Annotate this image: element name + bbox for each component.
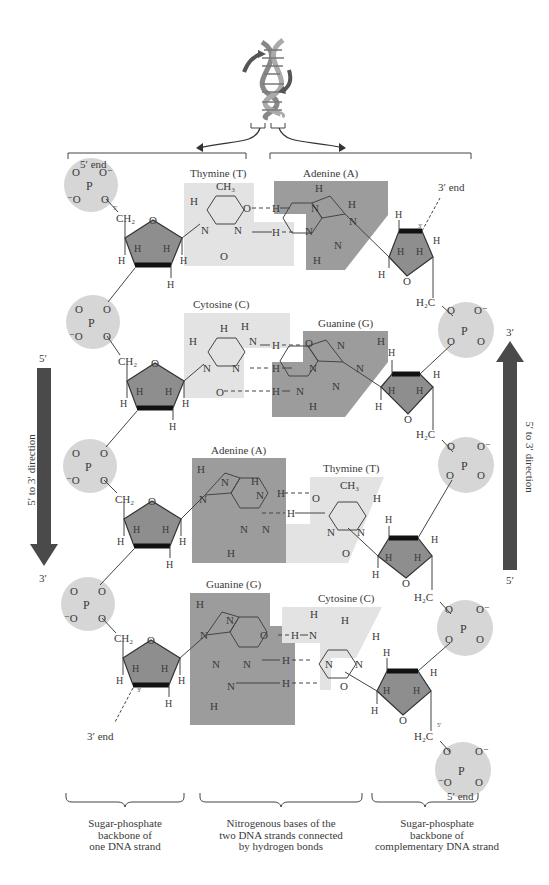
svg-text:H: H <box>388 385 395 396</box>
svg-text:P: P <box>88 316 95 330</box>
svg-text:O: O <box>72 447 80 459</box>
svg-text:⁻O: ⁻O <box>64 612 78 624</box>
svg-text:O: O <box>98 612 106 624</box>
svg-text:N: N <box>337 339 345 351</box>
svg-text:O: O <box>100 447 108 459</box>
svg-text:H: H <box>272 385 280 397</box>
svg-text:O: O <box>447 304 455 316</box>
svg-text:H₂C: H₂C <box>414 591 433 603</box>
svg-text:H: H <box>433 369 440 380</box>
svg-text:H: H <box>433 235 440 246</box>
left-arrow-top-label: 5′ <box>39 352 47 364</box>
base-label-thymine-3: Thymine (T) <box>323 462 380 475</box>
right-arrow-direction-label: 5′ to 3′ direction <box>524 421 536 493</box>
svg-text:H₂C: H₂C <box>416 428 435 440</box>
svg-text:H: H <box>180 255 187 266</box>
svg-text:O: O <box>260 629 268 641</box>
svg-text:N: N <box>309 629 317 641</box>
svg-text:N: N <box>305 225 313 237</box>
svg-text:H: H <box>287 507 295 519</box>
svg-text:⁻O: ⁻O <box>69 330 83 342</box>
svg-text:H: H <box>197 463 205 475</box>
svg-text:H: H <box>377 335 385 347</box>
svg-text:O: O <box>151 357 159 369</box>
svg-text:H: H <box>272 339 280 351</box>
svg-text:N: N <box>212 658 220 670</box>
caption-left-backbone: Sugar-phosphate backbone of one DNA stra… <box>50 818 200 853</box>
svg-text:H: H <box>161 663 168 674</box>
left-arrow-direction-label: 5′ to 3′ direction <box>25 434 37 506</box>
svg-text:O: O <box>399 714 407 726</box>
double-helix-icon <box>196 40 346 152</box>
svg-text:H: H <box>371 705 378 716</box>
svg-text:N: N <box>296 385 304 397</box>
svg-text:H: H <box>272 202 280 214</box>
svg-text:3′: 3′ <box>137 687 142 693</box>
svg-text:H: H <box>315 182 323 194</box>
svg-text:H: H <box>251 475 259 487</box>
svg-text:H: H <box>372 630 380 642</box>
svg-text:P: P <box>86 179 93 193</box>
svg-text:O: O <box>475 776 483 788</box>
svg-text:⁻O: ⁻O <box>67 193 81 205</box>
svg-text:H: H <box>227 547 235 559</box>
base-label-thymine-1: Thymine (T) <box>190 167 247 180</box>
svg-text:N: N <box>234 224 242 236</box>
svg-text:O: O <box>216 386 224 398</box>
base-label-adenine-3: Adenine (A) <box>211 444 267 457</box>
svg-text:H: H <box>162 524 169 535</box>
svg-text:H: H <box>383 685 390 696</box>
svg-text:H: H <box>118 255 125 266</box>
svg-text:O: O <box>147 634 155 646</box>
caption-right-backbone: Sugar-phosphate backbone of complementar… <box>362 818 512 853</box>
svg-text:O: O <box>220 250 228 262</box>
svg-text:O: O <box>447 440 455 452</box>
left-arrow-bottom-label: 3′ <box>39 572 47 584</box>
svg-text:O: O <box>446 469 454 481</box>
svg-text:N: N <box>199 493 207 505</box>
svg-text:H: H <box>272 226 280 238</box>
thymine-shade-3 <box>286 477 384 563</box>
svg-text:O: O <box>100 474 108 486</box>
svg-text:O⁻: O⁻ <box>474 304 488 316</box>
svg-text:H: H <box>189 335 197 347</box>
svg-text:H: H <box>310 608 318 620</box>
svg-text:H: H <box>383 647 390 658</box>
right-arrow-top-label: 3′ <box>506 326 514 338</box>
svg-text:O: O <box>243 202 251 214</box>
svg-text:H: H <box>309 400 317 412</box>
svg-text:H: H <box>395 209 402 220</box>
svg-text:H: H <box>167 279 174 290</box>
caption-nitrogenous-bases: Nitrogenous bases of the two DNA strands… <box>196 818 366 853</box>
deoxyribose-sugar <box>389 231 433 276</box>
base-label-cytosine-2: Cytosine (C) <box>193 298 250 311</box>
svg-text:H: H <box>397 246 404 257</box>
svg-text:N: N <box>243 658 251 670</box>
svg-text:O⁻: O⁻ <box>99 166 113 178</box>
svg-text:O: O <box>103 330 111 342</box>
five-prime-end-label-bottom: 5′ end <box>447 790 474 802</box>
svg-text:⁻O: ⁻O <box>438 776 452 788</box>
svg-text:N: N <box>256 489 264 501</box>
svg-text:H: H <box>178 675 185 686</box>
svg-text:H: H <box>313 254 321 266</box>
svg-text:H: H <box>120 398 127 409</box>
svg-text:H: H <box>413 685 420 696</box>
svg-text:H: H <box>166 559 173 570</box>
svg-text:H: H <box>132 663 139 674</box>
svg-text:O: O <box>312 492 320 504</box>
three-prime-end-label-top: 3′ end <box>438 181 465 193</box>
svg-text:O: O <box>98 585 106 597</box>
svg-text:H: H <box>241 320 249 332</box>
svg-text:N: N <box>332 380 340 392</box>
svg-text:H: H <box>133 524 140 535</box>
svg-text:O: O <box>477 335 485 347</box>
svg-text:N: N <box>249 335 257 347</box>
svg-text:N: N <box>221 476 229 488</box>
svg-text:O: O <box>103 303 111 315</box>
svg-text:CH₂: CH₂ <box>114 632 133 644</box>
svg-text:H: H <box>272 362 280 374</box>
svg-text:H: H <box>372 569 379 580</box>
base-label-cytosine-4: Cytosine (C) <box>318 592 375 605</box>
svg-text:H: H <box>282 654 290 666</box>
